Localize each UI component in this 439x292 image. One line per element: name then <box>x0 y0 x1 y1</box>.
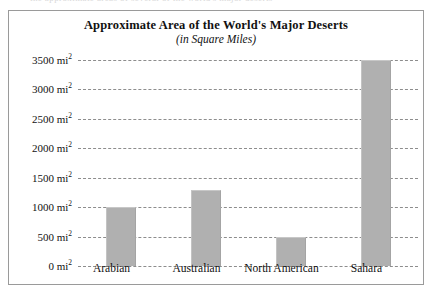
y-axis-tick-label: 2500 mi2 <box>32 113 72 125</box>
chart-frame: Approximate Area of the World's Major De… <box>8 10 424 285</box>
y-axis-tick-label: 500 mi2 <box>37 231 72 243</box>
bar-arabian[interactable] <box>106 207 136 266</box>
y-axis-tick-exponent: 2 <box>68 111 72 120</box>
x-axis-tick-label: North American <box>244 262 318 274</box>
y-axis-tick-value: 1500 mi <box>32 172 68 184</box>
bar-slot <box>333 60 418 266</box>
x-axis-tick-label: Arabian <box>93 262 130 274</box>
bar-australian[interactable] <box>191 190 221 267</box>
x-axis-tick-label: Australian <box>173 262 221 274</box>
bar-sahara[interactable] <box>361 60 391 266</box>
y-axis-tick-label: 2000 mi2 <box>32 142 72 154</box>
y-axis-tick-label: 1000 mi2 <box>32 201 72 213</box>
y-axis-tick-exponent: 2 <box>68 229 72 238</box>
y-axis-tick-value: 1000 mi <box>32 201 68 213</box>
y-axis-tick-label: 3500 mi2 <box>32 54 72 66</box>
y-axis-tick-exponent: 2 <box>68 170 72 179</box>
chart-subtitle: (in Square Miles) <box>9 33 423 45</box>
cutoff-text: the approximate areas of several of the … <box>30 0 410 3</box>
y-axis-tick-value: 2000 mi <box>32 142 68 154</box>
y-axis-tick-value: 3500 mi <box>32 54 68 66</box>
x-axis-labels: ArabianAustralianNorth AmericanSahara <box>69 262 409 282</box>
plot-area: 3500 mi23000 mi22500 mi22000 mi21500 mi2… <box>78 60 418 266</box>
y-axis-tick-value: 0 mi <box>48 260 68 272</box>
bar-slot <box>248 60 333 266</box>
y-axis-tick-label: 3000 mi2 <box>32 83 72 95</box>
x-axis-tick-label: Sahara <box>351 262 382 274</box>
y-axis-tick-value: 3000 mi <box>32 83 68 95</box>
y-axis-tick-exponent: 2 <box>68 141 72 150</box>
bar-slot <box>78 60 163 266</box>
y-axis-tick-exponent: 2 <box>68 82 72 91</box>
cutoff-text-strip: the approximate areas of several of the … <box>0 0 439 9</box>
y-axis-tick-label: 1500 mi2 <box>32 172 72 184</box>
y-axis-tick-value: 2500 mi <box>32 113 68 125</box>
chart-title: Approximate Area of the World's Major De… <box>9 18 423 33</box>
y-axis-tick-exponent: 2 <box>68 52 72 61</box>
bars-layer <box>78 60 418 266</box>
y-axis-tick-value: 500 mi <box>37 231 68 243</box>
bar-slot <box>163 60 248 266</box>
y-axis-tick-exponent: 2 <box>68 199 72 208</box>
